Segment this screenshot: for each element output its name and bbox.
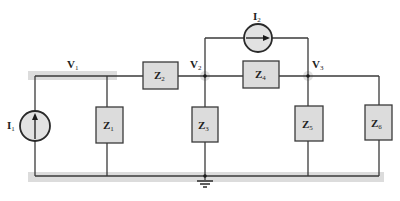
current-source-i1: I1 <box>7 111 50 141</box>
impedance-z6: Z6 <box>365 105 392 140</box>
current-source-i2: I2 <box>244 10 272 52</box>
impedance-z3: Z3 <box>192 107 218 142</box>
impedance-z4: Z4 <box>243 61 279 88</box>
node-label-v2: V2 <box>190 58 202 72</box>
impedance-z1: Z1 <box>96 107 123 143</box>
v3-node-dot <box>306 74 310 78</box>
svg-text:I2: I2 <box>253 10 261 24</box>
svg-text:I1: I1 <box>7 119 15 133</box>
ground-node-dot <box>203 174 207 178</box>
node-label-v1: V1 <box>67 58 79 72</box>
v2-node-dot <box>203 74 207 78</box>
impedance-z2: Z2 <box>143 62 178 89</box>
node-label-v3: V3 <box>312 58 324 72</box>
impedance-z5: Z5 <box>295 106 323 141</box>
circuit-diagram: Z1 Z2 Z3 Z4 Z5 Z6 I1 I2 V1 V2 V3 <box>0 0 400 201</box>
